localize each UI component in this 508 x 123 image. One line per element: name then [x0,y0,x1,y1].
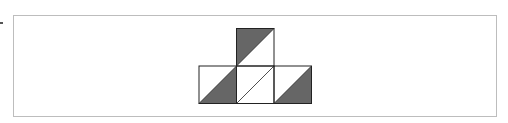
square-figure [0,0,508,123]
cell-top [237,29,275,67]
cell-bottom-middle [237,66,275,104]
diagram-stage [0,0,508,123]
cell-bottom-right [274,66,312,104]
diagonal-line [237,66,275,104]
cell-bottom-left [199,66,237,104]
